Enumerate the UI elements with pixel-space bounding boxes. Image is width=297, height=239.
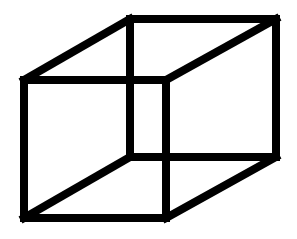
necker-cube-diagram [0, 0, 297, 239]
